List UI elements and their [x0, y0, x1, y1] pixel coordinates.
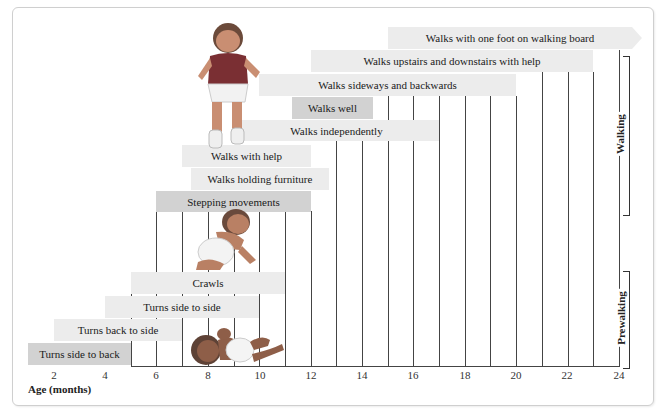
x-tick-16: 16 — [408, 369, 419, 381]
gridline-m23 — [593, 72, 594, 367]
gridline-m22 — [568, 72, 569, 367]
gridline-m13 — [336, 141, 337, 367]
x-tick-18: 18 — [460, 369, 471, 381]
bar-turns-side-to-back: Turns side to back — [28, 343, 131, 365]
gridline-m20 — [516, 96, 517, 367]
gridline-m12 — [311, 211, 312, 367]
bar-walks-well: Walks well — [292, 97, 373, 119]
lying-baby-image — [190, 326, 286, 370]
chart-plot: Walks with one foot on walking board Wal… — [0, 0, 666, 417]
prewalking-group-label: Prewalking — [615, 289, 627, 347]
bar-turns-back-to-side: Turns back to side — [54, 319, 182, 341]
gridline-m21 — [542, 72, 543, 367]
bar-walks-sideways-backwards: Walks sideways and backwards — [259, 74, 516, 96]
x-tick-6: 6 — [153, 369, 159, 381]
gridline-m17 — [439, 96, 440, 367]
x-tick-20: 20 — [511, 369, 522, 381]
x-tick-12: 12 — [306, 369, 317, 381]
crawling-baby-image — [190, 206, 262, 276]
x-tick-22: 22 — [562, 369, 573, 381]
x-tick-24: 24 — [614, 369, 625, 381]
walking-group-label: Walking — [614, 112, 626, 156]
bar-walks-one-foot-walking-board: Walks with one foot on walking board — [388, 27, 632, 49]
x-tick-2: 2 — [51, 369, 57, 381]
bar-walks-upstairs-downstairs: Walks upstairs and downstairs with help — [311, 50, 593, 72]
x-tick-8: 8 — [205, 369, 211, 381]
x-tick-4: 4 — [102, 369, 108, 381]
x-axis-label: Age (months) — [28, 383, 91, 395]
gridline-m19 — [490, 96, 491, 367]
x-tick-14: 14 — [357, 369, 368, 381]
gridline-m14 — [362, 141, 363, 367]
standing-baby-image — [190, 22, 270, 150]
bar-walks-holding-furniture: Walks holding furniture — [191, 168, 329, 190]
arrow-tip-icon — [632, 27, 642, 49]
bar-turns-side-to-side: Turns side to side — [105, 296, 259, 318]
x-tick-10: 10 — [255, 369, 266, 381]
gridline-m18 — [465, 96, 466, 367]
